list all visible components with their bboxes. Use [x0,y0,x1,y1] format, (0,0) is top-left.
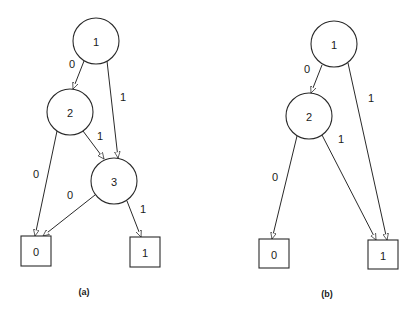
edge-label: 1 [120,91,126,103]
edge-a3-a0t [43,195,95,236]
node-label: 0 [33,246,39,258]
diagram-a: 01100112301(a) [21,18,160,297]
edge-b2-b0t [272,136,297,239]
edge-label: 1 [368,92,374,104]
edge-a1-a3 [107,61,118,158]
edge-label: 0 [69,58,75,70]
node-label: 1 [331,39,337,51]
node-label: 0 [271,249,277,261]
node-label: 2 [67,107,73,119]
caption-a: (a) [79,287,90,297]
node-label: 1 [93,36,99,48]
edge-b2-b1t [322,135,376,240]
node-label: 1 [142,247,148,259]
node-label: 1 [380,250,386,262]
node-label: 3 [111,176,117,188]
edge-a2-a0t [35,131,57,236]
edge-label: 0 [272,171,278,183]
edge-label: 1 [140,203,146,215]
edge-label: 0 [67,189,73,201]
edge-label: 0 [304,63,310,75]
edge-label: 1 [338,133,344,145]
diagram-b: 01101201(b) [259,21,398,299]
edge-b1-b2 [311,65,322,93]
node-label: 2 [306,111,312,123]
edge-label: 0 [33,168,39,180]
bdd-diagram-canvas: 01100112301(a) 01101201(b) [0,0,417,309]
edge-a3-a1t [127,201,141,237]
caption-b: (b) [321,289,333,299]
edge-label: 1 [97,130,103,142]
edge-b1-b1t [348,63,387,240]
